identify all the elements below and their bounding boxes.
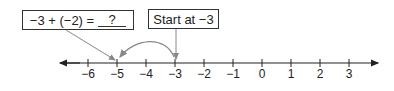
tick-label: −4 [139,67,153,81]
equation-pointer-arrow [66,30,115,60]
tick-label: 2 [317,67,324,81]
tick-label: 3 [346,67,353,81]
tick-label: −2 [197,67,211,81]
tick-label: −3 [168,67,182,81]
tick-label: −6 [81,67,95,81]
jump-arc [120,42,174,57]
tick-label: 1 [288,67,295,81]
tick-label: 0 [259,67,266,81]
tick-label: −5 [110,67,124,81]
tick-label: −1 [226,67,240,81]
